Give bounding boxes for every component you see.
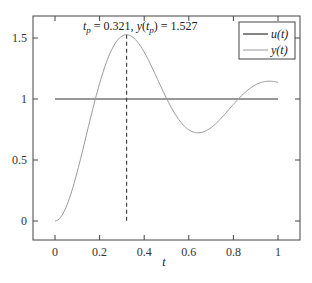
x-tick-label: 0.6 bbox=[181, 245, 196, 259]
peak-annotation: tp = 0.321, y(tp) = 1.527 bbox=[83, 19, 198, 35]
x-tick-label: 1 bbox=[275, 245, 281, 259]
x-tick-label: 0.2 bbox=[92, 245, 107, 259]
ann-tp-value: = 0.321, bbox=[91, 19, 137, 33]
y-ticks bbox=[33, 38, 300, 221]
step-response-chart: 00.20.40.60.81 00.511.5 tp = 0.321, y(tp… bbox=[0, 0, 312, 283]
x-tick-label: 0.8 bbox=[226, 245, 241, 259]
y-tick-label: 0 bbox=[21, 214, 27, 228]
series-y bbox=[55, 35, 278, 221]
ann-y-value: = 1.527 bbox=[158, 19, 198, 33]
x-tick-labels: 00.20.40.60.81 bbox=[52, 245, 281, 259]
y-tick-label: 0.5 bbox=[12, 153, 27, 167]
y-tick-label: 1 bbox=[21, 92, 27, 106]
x-tick-label: 0 bbox=[52, 245, 58, 259]
legend-y-label: y(t) bbox=[270, 43, 288, 57]
x-tick-label: 0.4 bbox=[137, 245, 152, 259]
y-tick-label: 1.5 bbox=[12, 31, 27, 45]
y-tick-labels: 00.511.5 bbox=[12, 31, 27, 228]
legend-u-label: u(t) bbox=[271, 27, 288, 41]
x-axis-label: t bbox=[162, 255, 166, 269]
legend: u(t) y(t) bbox=[239, 22, 295, 59]
